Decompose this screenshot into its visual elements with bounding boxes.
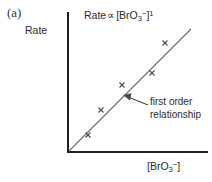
data-point-marker (99, 108, 104, 113)
data-point-marker (163, 41, 168, 46)
x-axis-label: [BrO3−] (147, 160, 180, 175)
xlabel-open: [BrO (147, 160, 169, 172)
data-point-marker (150, 71, 155, 76)
xlabel-close: ] (177, 160, 180, 172)
trend-line (69, 29, 191, 151)
panel-label: (a) (7, 6, 21, 21)
figure-panel-a: (a) Rate∝[BrO3−]1 Rate [BrO3−] first ord… (0, 0, 212, 182)
y-axis-label: Rate (25, 24, 47, 36)
annotation-arrow (123, 93, 148, 105)
proportional-symbol: ∝ (106, 9, 116, 21)
title-species-open: [BrO (116, 9, 138, 21)
title-lead: Rate (84, 9, 106, 21)
title-exponent: 1 (149, 9, 153, 18)
annotation-line-1: first order (150, 96, 192, 107)
data-point-marker (120, 83, 125, 88)
chart-title: Rate∝[BrO3−]1 (84, 9, 154, 24)
data-point-marker (86, 133, 91, 138)
annotation-line-2: relationship (150, 109, 201, 120)
annotation-label: first order relationship (150, 96, 212, 121)
